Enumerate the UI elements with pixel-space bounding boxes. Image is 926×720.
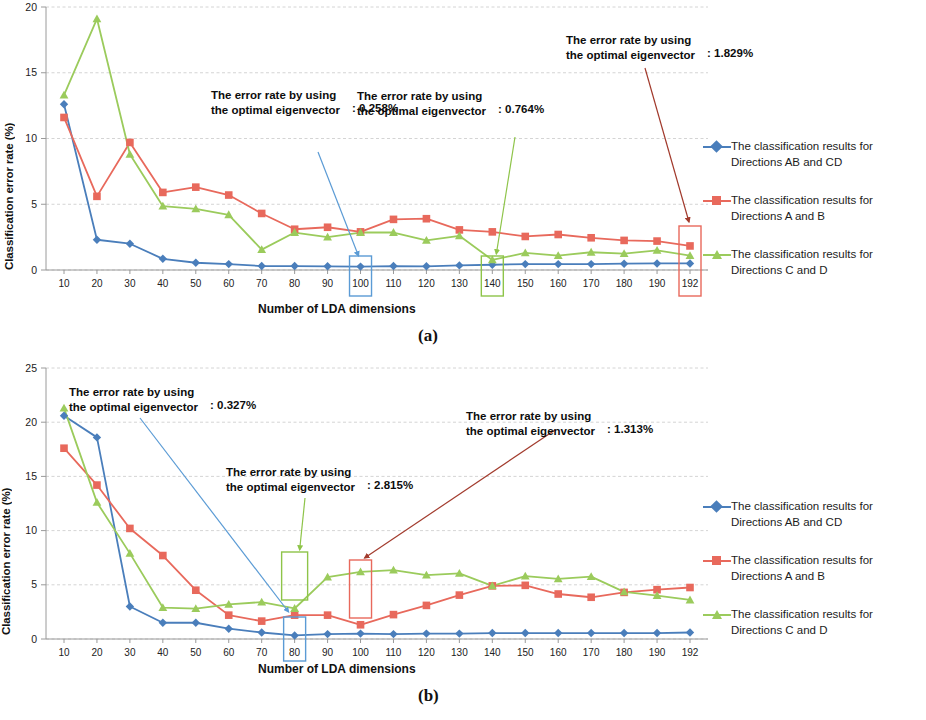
figure-container: 0510152010203040506070809010011012013014… — [0, 0, 926, 720]
x-tick-label: 130 — [451, 278, 468, 289]
data-point-marker — [159, 189, 167, 197]
x-tick-label: 140 — [484, 647, 501, 658]
x-tick-label: 100 — [352, 278, 369, 289]
x-tick-label: 60 — [223, 278, 235, 289]
x-tick-label: 100 — [352, 647, 369, 658]
y-tick-label: 5 — [31, 578, 37, 590]
data-point-marker — [258, 617, 266, 625]
x-tick-label: 20 — [91, 278, 103, 289]
x-tick-label: 180 — [616, 278, 633, 289]
data-point-marker — [554, 590, 562, 598]
callout-text-line2: the optimal eigenvector — [466, 425, 595, 437]
callout-value: : 1.313% — [607, 409, 653, 435]
data-point-marker — [521, 233, 529, 241]
x-tick-label: 120 — [418, 647, 435, 658]
y-tick-label: 15 — [25, 66, 37, 78]
legend-item-ab-cd: The classification results for Direction… — [703, 138, 926, 170]
y-tick-label: 20 — [25, 416, 37, 428]
data-point-marker — [423, 215, 431, 223]
y-tick-label: 0 — [31, 264, 37, 276]
x-tick-label: 170 — [583, 278, 600, 289]
callout-value: : 2.815% — [367, 465, 413, 491]
x-tick-label: 140 — [484, 278, 501, 289]
x-tick-label: 120 — [418, 278, 435, 289]
x-tick-label: 50 — [190, 647, 202, 658]
y-tick-label: 0 — [31, 633, 37, 645]
data-point-marker — [126, 139, 134, 147]
x-axis-title-a: Number of LDA dimensions — [258, 302, 416, 316]
data-point-marker — [192, 586, 200, 594]
legend-item-a-b: The classification results for Direction… — [703, 552, 926, 584]
callout-value: : 0.764% — [498, 89, 544, 115]
x-tick-label: 150 — [517, 278, 534, 289]
data-point-marker — [93, 481, 101, 489]
legend-label-line2: Directions AB and CD — [731, 516, 842, 528]
callout-text-line1: The error rate by using — [69, 386, 194, 398]
callout-text-line1: The error rate by using — [466, 410, 591, 422]
legend-a: The classification results for Direction… — [703, 138, 926, 300]
data-point-marker — [60, 444, 68, 452]
callout-a-2: The error rate by using the optimal eige… — [357, 89, 544, 118]
callout-b-3: The error rate by using the optimal eige… — [466, 409, 653, 438]
callout-text-line1: The error rate by using — [566, 34, 691, 46]
callout-b-2: The error rate by using the optimal eige… — [226, 465, 413, 494]
x-tick-label: 160 — [550, 647, 567, 658]
x-tick-label: 90 — [322, 278, 334, 289]
legend-b: The classification results for Direction… — [703, 498, 926, 660]
legend-label-line2: Directions A and B — [731, 570, 825, 582]
x-tick-label: 192 — [682, 647, 699, 658]
line-triangle-marker-icon — [703, 247, 731, 263]
legend-label-line2: Directions C and D — [731, 624, 828, 636]
callout-text-line2: the optimal eigenvector — [69, 401, 198, 413]
x-tick-label: 50 — [190, 278, 202, 289]
callout-value: : 1.829% — [707, 33, 753, 59]
data-point-marker — [554, 231, 562, 239]
line-triangle-marker-icon — [703, 607, 731, 623]
y-tick-label: 25 — [25, 362, 37, 374]
x-tick-label: 190 — [649, 278, 666, 289]
data-point-marker — [423, 602, 431, 610]
data-point-marker — [225, 191, 233, 199]
x-tick-label: 150 — [517, 647, 534, 658]
x-tick-label: 80 — [289, 647, 301, 658]
data-point-marker — [159, 552, 167, 560]
callout-text-line2: the optimal eigenvector — [566, 49, 695, 61]
x-tick-label: 180 — [616, 647, 633, 658]
legend-label-line1: The classification results for — [731, 554, 873, 566]
x-tick-label: 10 — [58, 278, 70, 289]
legend-label-ab-cd: The classification results for Direction… — [731, 138, 873, 170]
data-point-marker — [93, 193, 101, 201]
callout-text-line2: the optimal eigenvector — [211, 104, 340, 116]
callout-text-line1: The error rate by using — [211, 89, 336, 101]
data-point-marker — [324, 611, 332, 619]
callout-text-line2: the optimal eigenvector — [226, 481, 355, 493]
x-tick-label: 90 — [322, 647, 334, 658]
panel-caption-b: (b) — [418, 686, 439, 706]
x-tick-label: 20 — [91, 647, 103, 658]
legend-label-line1: The classification results for — [731, 194, 873, 206]
callout-value: : 0.327% — [210, 385, 256, 411]
legend-item-c-d: The classification results for Direction… — [703, 606, 926, 638]
data-point-marker — [390, 611, 398, 619]
y-tick-label: 10 — [25, 132, 37, 144]
data-point-marker — [587, 234, 595, 242]
data-point-marker — [324, 223, 332, 231]
legend-label-a-b: The classification results for Direction… — [731, 192, 873, 224]
x-tick-label: 110 — [385, 647, 401, 658]
legend-label-line2: Directions A and B — [731, 210, 825, 222]
data-point-marker — [225, 611, 233, 619]
data-point-marker — [357, 621, 365, 629]
data-point-marker — [126, 525, 134, 533]
data-point-marker — [653, 237, 661, 245]
data-point-marker — [489, 228, 497, 236]
x-tick-label: 70 — [256, 647, 268, 658]
x-tick-label: 60 — [223, 647, 235, 658]
callout-a-3: The error rate by using the optimal eige… — [566, 33, 753, 62]
y-tick-label: 10 — [25, 524, 37, 536]
data-point-marker — [587, 593, 595, 601]
y-axis-title-a: Classification error rate (%) — [3, 20, 15, 270]
x-tick-label: 170 — [583, 647, 600, 658]
x-tick-label: 80 — [289, 278, 301, 289]
x-tick-label: 110 — [385, 278, 401, 289]
y-tick-label: 20 — [25, 1, 37, 13]
